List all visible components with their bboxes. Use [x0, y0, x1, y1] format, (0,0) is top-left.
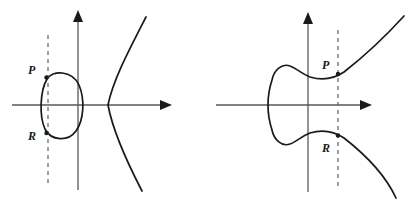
parabola-branch-left — [108, 17, 146, 191]
y-axis-arrow-left — [73, 10, 83, 22]
x-axis-arrow-left — [160, 100, 172, 110]
right-panel: P R — [204, 0, 408, 211]
y-axis-arrow-right — [303, 12, 313, 24]
left-panel: P R — [0, 0, 204, 211]
connected-curve-right — [268, 16, 404, 198]
point-r-dot-right — [336, 133, 340, 137]
y-axis-right — [303, 12, 313, 192]
point-label-p-right: P — [322, 59, 329, 71]
point-label-r-left: R — [28, 130, 36, 142]
point-label-r-right: R — [322, 142, 330, 154]
figure-container: P R P R — [0, 0, 408, 211]
oval-curve-left — [41, 73, 83, 139]
x-axis-left — [12, 100, 172, 110]
point-r-dot-left — [44, 131, 48, 135]
point-p-dot-right — [336, 72, 340, 76]
x-axis-arrow-right — [360, 100, 372, 110]
x-axis-right — [216, 100, 372, 110]
point-label-p-left: P — [28, 64, 35, 76]
point-p-dot-left — [44, 75, 48, 79]
y-axis-left — [73, 10, 83, 190]
